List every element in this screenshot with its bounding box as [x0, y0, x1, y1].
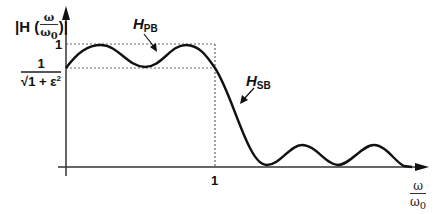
passband-guide-lines	[66, 44, 215, 167]
x-axis-label: ω ω0	[410, 180, 426, 211]
ripple-numerator: 1	[37, 57, 44, 71]
y-tick-ripple-level: 1 √1 + ε2	[18, 57, 64, 88]
ripple-denominator: √1 + ε2	[21, 71, 61, 88]
x-axis-arrow-icon	[415, 163, 429, 171]
y-axis-label-prefix: |H (	[15, 19, 39, 34]
x-axis-label-den: ω0	[410, 193, 426, 211]
response-curve	[66, 45, 412, 167]
axes	[58, 16, 422, 176]
x-axis-label-num: ω	[413, 180, 423, 193]
y-tick-one: 1	[55, 38, 62, 51]
stopband-label: HSB	[246, 73, 271, 91]
passband-label: HPB	[133, 16, 158, 34]
x-tick-one: 1	[211, 174, 218, 187]
y-axis-label-num: ω	[44, 12, 54, 24]
y-axis-label-suffix: )|	[59, 19, 68, 34]
